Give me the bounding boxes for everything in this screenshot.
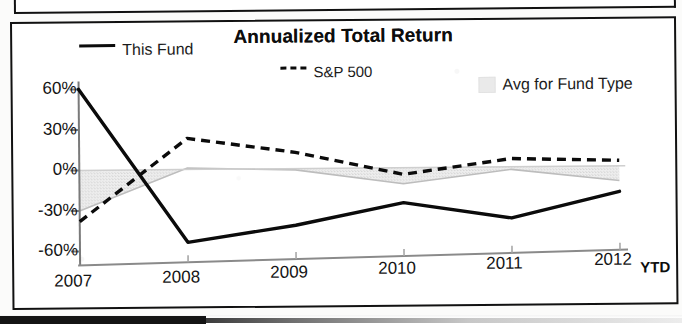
x-axis-tick-label: 2008 [162, 267, 200, 287]
x-axis-tick-label: 2011 [486, 254, 523, 274]
x-axis-tick-label: 2010 [378, 258, 416, 278]
page-bottom-dark-right [206, 318, 682, 323]
page-bottom-dark-left [0, 316, 206, 324]
x-axis-tick-label: 2007 [54, 271, 92, 291]
upper-partial-frame [14, 0, 676, 14]
x-axis-labels: 200720082009201020112012YTD [12, 18, 676, 308]
chart-frame: Annualized Total Return This Fund S&P 50… [10, 16, 678, 310]
x-axis-tick-label: 2009 [270, 263, 308, 283]
scanned-page: Annualized Total Return This Fund S&P 50… [0, 0, 682, 324]
x-axis-tick-label: 2012 [594, 250, 632, 270]
x-axis-ytd-label: YTD [640, 258, 670, 275]
plot-area: 60%30%0%-30%-60% 20072008200920102011201… [12, 18, 676, 308]
